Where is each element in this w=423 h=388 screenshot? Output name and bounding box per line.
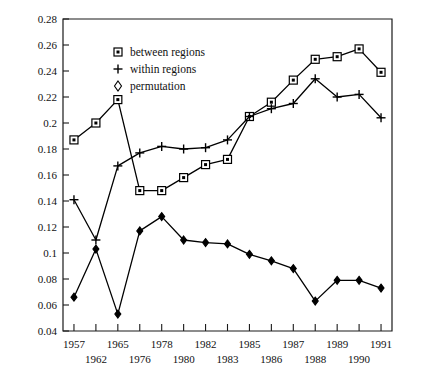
x-tick-label: 1986	[260, 353, 283, 365]
legend-label: within regions	[130, 63, 197, 76]
marker-diamond	[137, 227, 143, 235]
marker-diamond	[225, 240, 231, 248]
marker-square-center	[380, 71, 383, 74]
series-between-regions	[70, 45, 385, 195]
marker-diamond	[71, 293, 77, 301]
marker-square-center	[292, 79, 295, 82]
plot-border	[63, 19, 392, 331]
marker-diamond	[378, 284, 384, 292]
x-tick-label: 1976	[129, 353, 152, 365]
x-tick-label: 1957	[63, 338, 86, 350]
marker-diamond	[203, 239, 209, 247]
x-tick-label: 1985	[238, 338, 261, 350]
x-tick-label: 1988	[304, 353, 327, 365]
legend-label: permutation	[130, 80, 186, 93]
y-tick-label: 0.1	[43, 247, 57, 259]
marker-diamond	[356, 276, 362, 284]
y-axis-ticks: 0.040.060.080.10.120.140.160.180.20.220.…	[38, 13, 69, 337]
y-tick-label: 0.24	[38, 65, 58, 77]
x-tick-label: 1962	[85, 353, 107, 365]
y-tick-label: 0.14	[38, 195, 58, 207]
legend-label: between regions	[130, 46, 206, 59]
y-tick-label: 0.12	[38, 221, 57, 233]
marker-square-center	[138, 189, 141, 192]
axis-frame	[63, 19, 392, 331]
marker-square-center	[182, 176, 185, 179]
marker-square-center	[358, 47, 361, 50]
y-tick-label: 0.08	[38, 273, 58, 285]
marker-diamond	[115, 310, 121, 318]
marker-diamond	[93, 245, 99, 253]
y-tick-label: 0.06	[38, 299, 58, 311]
marker-square-center	[314, 58, 317, 61]
y-tick-label: 0.26	[38, 39, 58, 51]
series-line	[74, 49, 381, 191]
y-tick-label: 0.22	[38, 91, 57, 103]
y-tick-label: 0.2	[43, 117, 57, 129]
y-tick-label: 0.28	[38, 13, 58, 25]
legend-item-plus: within regions	[114, 63, 197, 76]
x-tick-label: 1982	[195, 338, 217, 350]
x-tick-label: 1987	[282, 338, 305, 350]
legend-marker-diamond	[115, 81, 122, 91]
marker-square-center	[160, 189, 163, 192]
x-tick-label: 1983	[217, 353, 240, 365]
legend-item-square: between regions	[114, 46, 206, 59]
marker-square-center	[94, 122, 97, 125]
line-chart: 0.040.060.080.10.120.140.160.180.20.220.…	[0, 0, 423, 388]
chart-container: 0.040.060.080.10.120.140.160.180.20.220.…	[0, 0, 423, 388]
x-tick-label: 1978	[151, 338, 174, 350]
marker-square-center	[116, 98, 119, 101]
marker-square-center	[204, 163, 207, 166]
x-tick-label: 1980	[173, 353, 196, 365]
y-tick-label: 0.04	[38, 325, 58, 337]
marker-square-center	[72, 138, 75, 141]
y-tick-label: 0.16	[38, 169, 58, 181]
x-tick-label: 1989	[326, 338, 349, 350]
marker-diamond	[246, 250, 252, 258]
marker-diamond	[268, 257, 274, 265]
legend-item-diamond: permutation	[115, 80, 186, 93]
x-tick-label: 1965	[107, 338, 130, 350]
marker-square-center	[117, 51, 120, 54]
marker-square-center	[270, 101, 273, 104]
x-tick-label: 1991	[370, 338, 392, 350]
x-tick-label: 1990	[348, 353, 371, 365]
marker-square-center	[226, 158, 229, 161]
x-axis-ticks: 1957196219651976197819801982198319851986…	[63, 324, 392, 365]
y-tick-label: 0.18	[38, 143, 58, 155]
series-line	[74, 217, 381, 315]
marker-square-center	[336, 55, 339, 58]
series-permutation	[71, 213, 384, 319]
chart-legend: between regionswithin regionspermutation	[114, 46, 206, 93]
